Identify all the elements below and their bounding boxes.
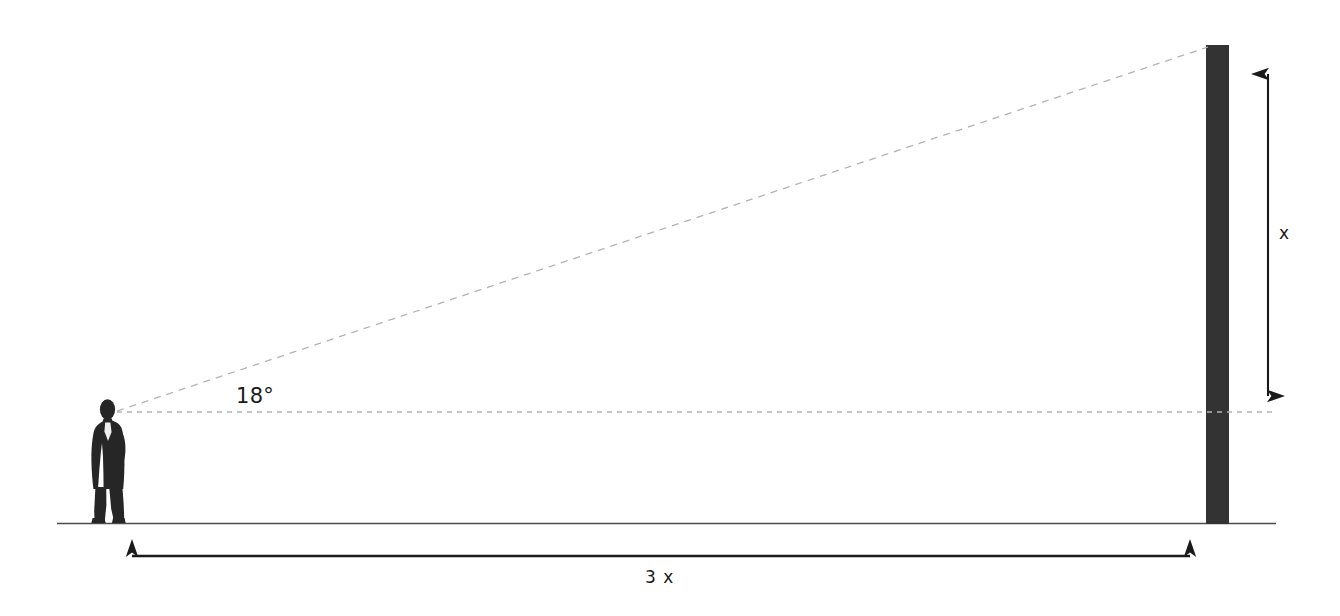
vertical-tower: [1206, 45, 1229, 524]
line-of-sight-dashed: [117, 47, 1208, 411]
angle-label: 18°: [236, 384, 274, 408]
distance-label: 3 x: [645, 567, 674, 587]
diagram-svg: [0, 0, 1340, 616]
diagram-canvas: 18° x 3 x: [0, 0, 1340, 616]
businessman-silhouette: [91, 399, 125, 523]
height-label: x: [1279, 223, 1290, 243]
